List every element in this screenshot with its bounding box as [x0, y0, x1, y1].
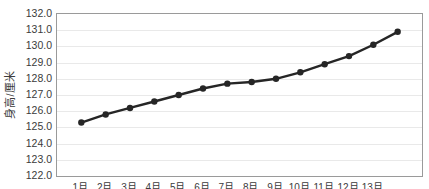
data-point-marker — [102, 111, 108, 117]
plot-area — [56, 13, 423, 177]
x-axis-tick-label: 8月 — [243, 179, 259, 189]
data-point-marker — [127, 105, 133, 111]
data-point-marker — [346, 53, 352, 59]
x-axis-tick-label: 9月 — [267, 179, 283, 189]
x-axis-tick-label: 7月 — [219, 179, 235, 189]
data-point-marker — [248, 79, 254, 85]
y-axis-tick-label: 125.0 — [26, 120, 52, 132]
data-point-marker — [297, 69, 303, 75]
x-axis-tick-label: 13月 — [362, 179, 383, 189]
y-axis-tick-label: 122.0 — [26, 169, 52, 181]
data-point-marker — [151, 98, 157, 104]
data-point-marker — [200, 85, 206, 91]
data-point-marker — [394, 29, 400, 35]
series-height — [57, 14, 422, 176]
x-axis-tick-label: 3月 — [121, 179, 137, 189]
data-point-marker — [321, 61, 327, 67]
y-axis-tick-label: 123.0 — [26, 153, 52, 165]
x-axis-tick-label: 5月 — [170, 179, 186, 189]
y-axis-tick-label: 130.0 — [26, 39, 52, 51]
data-point-marker — [370, 42, 376, 48]
x-axis-tick-label: 10月 — [289, 179, 310, 189]
data-point-marker — [273, 76, 279, 82]
x-axis-tick-label: 4月 — [146, 179, 162, 189]
y-axis-title-label: 身高/厘米 — [1, 71, 17, 118]
line-chart: 身高/厘米 132.0131.0130.0129.0128.0127.0126.… — [0, 0, 429, 189]
y-axis-tick-label: 129.0 — [26, 56, 52, 68]
x-axis-tick-label: 2月 — [97, 179, 113, 189]
y-axis-tick-label: 124.0 — [26, 137, 52, 149]
y-axis-tick-label: 128.0 — [26, 72, 52, 84]
y-axis-tick-labels: 132.0131.0130.0129.0128.0127.0126.0125.0… — [16, 0, 54, 189]
data-point-marker — [224, 80, 230, 86]
y-axis-tick-label: 131.0 — [26, 23, 52, 35]
x-axis-tick-labels: 1月2月3月4月5月6月7月8月9月10月11月12月13月 — [56, 179, 421, 189]
plot-inner — [57, 14, 422, 176]
x-axis-tick-label: 12月 — [337, 179, 358, 189]
data-point-marker — [78, 119, 84, 125]
x-axis-tick-label: 1月 — [73, 179, 89, 189]
data-point-marker — [175, 92, 181, 98]
x-axis-tick-label: 6月 — [194, 179, 210, 189]
y-axis-tick-label: 127.0 — [26, 88, 52, 100]
x-axis-tick-label: 11月 — [313, 179, 333, 189]
y-axis-tick-label: 126.0 — [26, 104, 52, 116]
y-axis-tick-label: 132.0 — [26, 7, 52, 19]
